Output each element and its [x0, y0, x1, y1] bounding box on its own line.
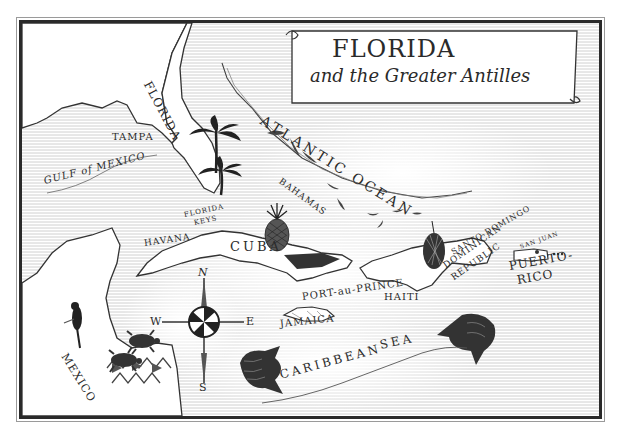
compass-west: W [150, 315, 162, 328]
map-subtitle: and the Greater Antilles [310, 65, 530, 86]
compass-south: S [199, 381, 208, 394]
map-title: FLORIDA [332, 35, 455, 63]
label-cuba: CUBA [230, 239, 282, 254]
compass-east: E [246, 315, 255, 328]
compass-north: N [198, 266, 209, 279]
label-haiti: HAITI [384, 291, 420, 302]
map-frame: FLORIDA and the Greater Antilles FLORIDA… [19, 20, 602, 419]
label-tampa: TAMPA [112, 131, 154, 142]
